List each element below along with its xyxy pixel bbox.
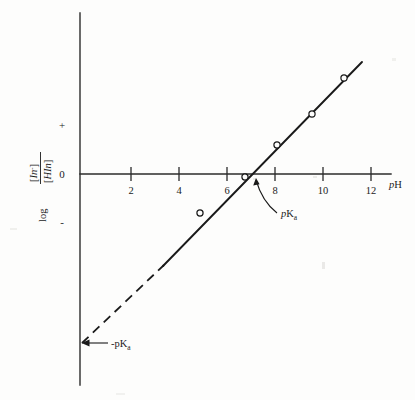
chart-page: 2 4 6 8 10 12 pH + 0 - log [In-] [HIn] bbox=[0, 0, 415, 400]
data-point bbox=[274, 142, 280, 148]
scan-artifacts bbox=[10, 58, 396, 395]
y-tick-label-plus: + bbox=[59, 119, 65, 131]
x-tick-label-2: 2 bbox=[128, 185, 133, 196]
y-axis-title-numerator: [In-] bbox=[28, 164, 39, 182]
y-tick-label-zero: 0 bbox=[59, 168, 65, 180]
x-tick-label-10: 10 bbox=[318, 185, 329, 196]
data-point bbox=[309, 111, 315, 117]
x-tick-label-4: 4 bbox=[176, 185, 182, 196]
neg-pka-annotation: -pKa bbox=[82, 338, 132, 352]
x-tick-label-12: 12 bbox=[366, 185, 377, 196]
neg-pka-label: -pKa bbox=[111, 338, 131, 352]
x-tick-label-6: 6 bbox=[224, 185, 229, 196]
data-point bbox=[341, 75, 347, 81]
data-point bbox=[242, 174, 248, 180]
y-tick-label-minus: - bbox=[60, 216, 64, 228]
x-axis-title-h: H bbox=[394, 179, 402, 190]
x-axis-title: pH bbox=[388, 179, 402, 190]
x-tick-label-8: 8 bbox=[272, 185, 277, 196]
data-point bbox=[197, 210, 203, 216]
y-axis-title-denominator: [HIn] bbox=[42, 160, 53, 183]
fit-line-dashed-extrapolation bbox=[82, 265, 164, 343]
y-axis-title-log: log bbox=[37, 208, 48, 222]
indicator-pka-plot: 2 4 6 8 10 12 pH + 0 - log [In-] [HIn] bbox=[0, 0, 415, 400]
fit-line-solid bbox=[163, 62, 362, 266]
y-axis-title: log [In-] [HIn] bbox=[28, 152, 53, 222]
pka-label: pKa bbox=[280, 208, 298, 222]
